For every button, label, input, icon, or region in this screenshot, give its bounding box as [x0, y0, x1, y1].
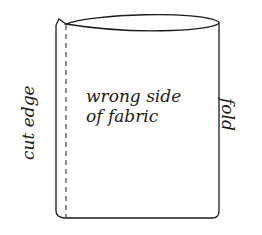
bottom-edge — [64, 211, 219, 218]
left-edge — [56, 25, 64, 218]
fold-label: fold — [218, 98, 238, 131]
center-label-line1: wrong side — [86, 86, 181, 106]
center-label: wrong side of fabric — [86, 86, 181, 126]
cut-edge-label: cut edge — [18, 85, 38, 160]
center-label-line2: of fabric — [86, 106, 181, 126]
tube-opening — [66, 15, 219, 31]
